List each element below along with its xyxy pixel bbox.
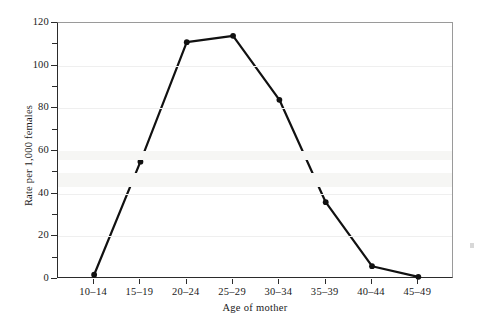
x-tick-label: 30–34	[265, 286, 293, 297]
gridline	[58, 236, 452, 237]
data-point-marker	[184, 39, 190, 45]
y-tick-label: 0	[44, 273, 49, 284]
x-tick	[371, 279, 372, 284]
y-tick-label: 40	[38, 187, 49, 198]
x-tick-label: 15–19	[126, 286, 154, 297]
x-axis-title: Age of mother	[57, 302, 453, 313]
plot-frame	[57, 22, 453, 278]
y-tick-label: 20	[38, 230, 49, 241]
y-tick-major	[51, 278, 57, 279]
x-tick-label: 45–49	[403, 286, 431, 297]
x-tick	[278, 279, 279, 284]
x-tick-label: 40–44	[357, 286, 385, 297]
x-tick	[93, 279, 94, 284]
y-axis: 020406080100120	[0, 0, 57, 325]
x-tick-label: 35–39	[311, 286, 339, 297]
series-polyline	[94, 36, 418, 277]
x-tick-label: 25–29	[218, 286, 246, 297]
x-tick-label: 10–14	[79, 286, 107, 297]
data-point-marker	[230, 33, 236, 39]
x-tick	[186, 279, 187, 284]
y-tick-label: 60	[38, 145, 49, 156]
x-tick	[417, 279, 418, 284]
plot-area	[58, 23, 452, 277]
x-tick	[232, 279, 233, 284]
data-point-marker	[323, 199, 329, 205]
figure-birth-rate-by-age-of-mother: Rate per 1,000 females 020406080100120 1…	[0, 0, 482, 325]
scan-artifact-mark	[470, 243, 474, 248]
y-tick-label: 80	[38, 102, 49, 113]
gridline	[58, 194, 452, 195]
data-point-marker	[415, 274, 421, 280]
y-tick-label: 120	[33, 17, 49, 28]
x-tick-label: 20–24	[172, 286, 200, 297]
x-tick	[139, 279, 140, 284]
x-tick	[325, 279, 326, 284]
gridline	[58, 108, 452, 109]
y-tick-label: 100	[33, 59, 49, 70]
data-point-marker	[138, 159, 144, 165]
gridline	[58, 151, 452, 152]
data-point-marker	[91, 272, 97, 278]
gridline	[58, 66, 452, 67]
data-point-marker	[276, 97, 282, 103]
data-point-marker	[369, 263, 375, 269]
